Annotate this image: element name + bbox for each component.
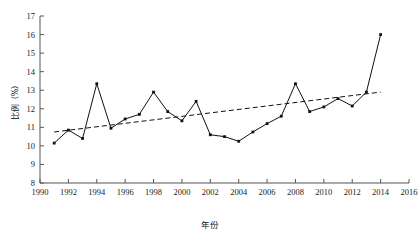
svg-text:2004: 2004 <box>230 187 248 197</box>
svg-text:1994: 1994 <box>88 187 106 197</box>
data-series-line <box>54 35 380 144</box>
svg-text:13: 13 <box>27 85 36 95</box>
svg-text:2006: 2006 <box>259 187 276 197</box>
svg-text:1990: 1990 <box>32 187 49 197</box>
svg-text:14: 14 <box>27 67 36 77</box>
svg-text:1996: 1996 <box>117 187 134 197</box>
figure-caption <box>0 233 420 246</box>
svg-text:2010: 2010 <box>315 187 332 197</box>
trend-line-dashed <box>54 92 380 132</box>
svg-text:17: 17 <box>27 11 36 21</box>
line-chart: 891011121314151617 199019921994199619982… <box>0 0 420 200</box>
y-axis-title: 比例（%） <box>9 71 20 131</box>
y-axis-ticks: 891011121314151617 <box>27 11 45 188</box>
svg-text:16: 16 <box>27 30 36 40</box>
chart-svg: 891011121314151617 199019921994199619982… <box>0 0 420 200</box>
svg-text:9: 9 <box>31 159 35 169</box>
svg-text:2000: 2000 <box>173 187 190 197</box>
svg-text:1998: 1998 <box>145 187 162 197</box>
svg-text:11: 11 <box>27 122 35 132</box>
svg-text:15: 15 <box>27 48 36 58</box>
x-axis-title: 年份 <box>0 218 420 230</box>
x-axis-ticks: 1990199219941996199820002002200420062008… <box>32 179 418 197</box>
figure-container: 891011121314151617 199019921994199619982… <box>0 0 420 246</box>
svg-text:12: 12 <box>27 104 36 114</box>
svg-text:2002: 2002 <box>202 187 219 197</box>
svg-text:10: 10 <box>27 141 36 151</box>
svg-text:1992: 1992 <box>60 187 77 197</box>
svg-text:2016: 2016 <box>401 187 418 197</box>
svg-text:2012: 2012 <box>344 187 361 197</box>
svg-text:2014: 2014 <box>372 187 390 197</box>
svg-text:2008: 2008 <box>287 187 304 197</box>
data-point-markers <box>53 33 382 144</box>
